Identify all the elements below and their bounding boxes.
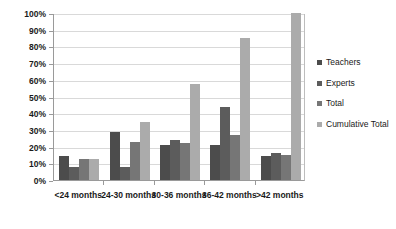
y-axis: 0%10%20%30%40%50%60%70%80%90%100% (0, 0, 53, 195)
bar (59, 156, 69, 180)
bar (170, 140, 180, 180)
bar-group (54, 14, 104, 180)
y-tick-label: 100% (24, 10, 46, 19)
x-tick-label: <24 months (50, 190, 106, 201)
bar-group (205, 14, 255, 180)
y-tick-label: 20% (29, 143, 46, 152)
bar (180, 143, 190, 180)
bar (140, 122, 150, 180)
y-tick-label: 40% (29, 110, 46, 119)
x-axis: <24 months24-30 months30-36 months36-42 … (0, 181, 396, 229)
bar (281, 155, 291, 180)
legend-swatch-icon (317, 60, 322, 65)
legend-label: Experts (326, 78, 355, 89)
bar-group (155, 14, 205, 180)
x-tick-label: >42 months (252, 190, 308, 201)
bar (271, 153, 281, 180)
y-tick-label: 30% (29, 127, 46, 136)
legend-swatch-icon (317, 101, 322, 106)
x-tick-label: 36-42 months (201, 190, 257, 201)
bar (110, 132, 120, 180)
y-tick-label: 90% (29, 26, 46, 35)
plot-area (53, 14, 305, 181)
bar (210, 145, 220, 180)
legend-item[interactable]: Teachers (317, 57, 396, 68)
bar (160, 145, 170, 180)
y-tick-label: 50% (29, 93, 46, 102)
bar (230, 135, 240, 180)
bar-chart: 0%10%20%30%40%50%60%70%80%90%100% <24 mo… (0, 0, 396, 229)
bar (89, 159, 99, 180)
bar (130, 142, 140, 180)
bar-groups (54, 14, 304, 180)
legend-item[interactable]: Cumulative Total (317, 119, 396, 130)
y-tick-label: 80% (29, 43, 46, 52)
legend-swatch-icon (317, 122, 322, 127)
bar-group (256, 14, 306, 180)
bar-group (104, 14, 154, 180)
bar (261, 156, 271, 180)
legend-label: Cumulative Total (326, 119, 389, 130)
y-tick-label: 10% (29, 160, 46, 169)
bar (120, 167, 130, 180)
x-tickmark (255, 181, 256, 185)
bar (190, 84, 200, 180)
legend-item[interactable]: Experts (317, 78, 396, 89)
bar (79, 159, 89, 180)
legend-item[interactable]: Total (317, 98, 396, 109)
bar (291, 13, 301, 180)
x-tickmark (204, 181, 205, 185)
x-tickmark (154, 181, 155, 185)
x-tick-label: 24-30 months (101, 190, 157, 201)
x-tick-label: 30-36 months (151, 190, 207, 201)
bar (220, 107, 230, 180)
y-tick-label: 60% (29, 77, 46, 86)
legend-swatch-icon (317, 81, 322, 86)
legend-label: Teachers (326, 57, 361, 68)
bar (69, 167, 79, 180)
bar (240, 38, 250, 180)
x-tickmark (103, 181, 104, 185)
legend: TeachersExpertsTotalCumulative Total (317, 57, 396, 140)
legend-label: Total (326, 98, 344, 109)
y-tick-label: 70% (29, 60, 46, 69)
